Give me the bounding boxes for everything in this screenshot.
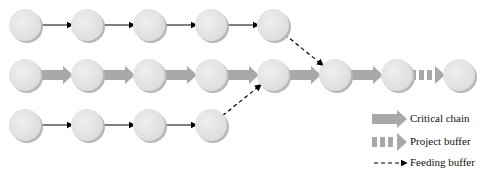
task-node xyxy=(71,9,105,43)
task-node xyxy=(71,109,105,143)
task-node xyxy=(133,59,167,93)
task-node xyxy=(381,59,415,93)
task-node xyxy=(133,9,167,43)
task-node xyxy=(257,59,291,93)
task-node xyxy=(195,59,229,93)
project-buffer-arrow xyxy=(411,66,445,84)
task-node xyxy=(133,109,167,143)
task-node xyxy=(443,59,477,93)
task-node xyxy=(319,59,353,93)
critical-chain-arrow xyxy=(349,66,383,84)
thick-arrow-icon xyxy=(372,110,407,128)
task-node xyxy=(71,59,105,93)
task-node xyxy=(195,9,229,43)
task-node xyxy=(9,109,43,143)
critical-chain-arrow xyxy=(39,66,73,84)
task-node xyxy=(9,9,43,43)
task-node xyxy=(9,59,43,93)
critical-chain-arrow xyxy=(287,66,321,84)
legend-project-buffer-label: Project buffer xyxy=(410,135,471,147)
legend-feeding-buffer-label: Feeding buffer xyxy=(410,156,475,168)
task-node xyxy=(257,9,291,43)
legend-critical-chain-label: Critical chain xyxy=(410,112,470,124)
critical-chain-arrow xyxy=(163,66,197,84)
dashed-thick-arrow-icon xyxy=(372,133,407,151)
feeding-buffer-arrow xyxy=(285,34,324,65)
critical-chain-diagram xyxy=(0,0,488,177)
feeding-buffer-arrow xyxy=(223,84,262,115)
critical-chain-arrow xyxy=(101,66,135,84)
critical-chain-arrow xyxy=(225,66,259,84)
